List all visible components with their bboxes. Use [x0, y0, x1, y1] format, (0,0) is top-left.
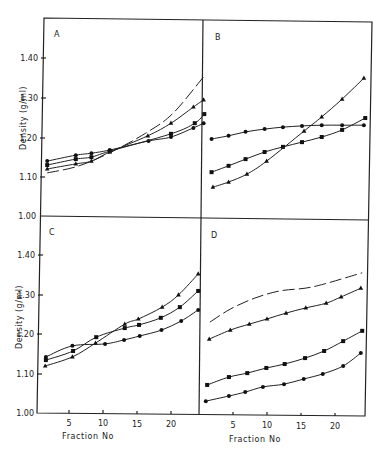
triangle-marker-icon	[264, 158, 269, 162]
circle-marker-icon	[191, 126, 195, 130]
ytick-label: 1.40	[17, 251, 35, 260]
ytick-label: 1.10	[19, 173, 37, 182]
square-marker-icon	[244, 157, 248, 161]
circle-marker-icon	[227, 134, 231, 138]
circle-marker-icon	[281, 125, 285, 129]
x-axis-right: 5 10 15 20 Fraction No	[229, 412, 340, 444]
square-marker-icon	[44, 358, 48, 362]
square-marker-icon	[283, 362, 287, 366]
series-line-triangles	[45, 274, 198, 366]
circle-marker-icon	[320, 123, 324, 127]
circle-marker-icon	[261, 385, 265, 389]
circle-marker-icon	[70, 344, 74, 348]
square-marker-icon	[210, 170, 214, 174]
panel-c-series	[43, 271, 201, 367]
circle-marker-icon	[179, 319, 183, 323]
square-marker-icon	[322, 349, 326, 353]
circle-marker-icon	[302, 377, 306, 381]
series-line-triangles	[213, 78, 364, 187]
panel-label-a: A	[54, 30, 60, 39]
panel-b-series	[210, 76, 368, 189]
plot-series	[43, 75, 367, 403]
circle-marker-icon	[210, 137, 214, 141]
circle-marker-icon	[74, 153, 78, 157]
x-axis-label: Fraction No	[62, 432, 114, 441]
square-marker-icon	[360, 329, 364, 333]
xtick-label: 20	[330, 422, 340, 431]
ytick-label: 1.00	[18, 212, 36, 221]
panel-label-b: B	[215, 33, 221, 42]
panel-label-d: D	[211, 231, 217, 240]
xtick-label: 10	[262, 421, 272, 430]
figure-frame	[37, 18, 372, 416]
square-marker-icon	[71, 349, 75, 353]
series-line-circles	[212, 125, 364, 139]
square-marker-icon	[137, 323, 141, 327]
xtick-label: 5	[66, 419, 71, 428]
y-axis-bottom: 1.40 1.30 1.20 1.10 1.00 Density (g/ml)	[15, 251, 43, 418]
circle-marker-icon	[243, 390, 247, 394]
square-marker-icon	[202, 112, 206, 116]
series-line-circles	[46, 310, 198, 357]
square-marker-icon	[227, 375, 231, 379]
series-line-triangles	[47, 100, 203, 169]
xtick-label: 5	[230, 421, 235, 430]
panel-d-series	[204, 273, 364, 403]
square-marker-icon	[94, 335, 98, 339]
series-line-circles	[47, 123, 203, 161]
circle-marker-icon	[321, 372, 325, 376]
xtick-label: 15	[132, 420, 142, 429]
circle-marker-icon	[122, 338, 126, 342]
triangle-marker-icon	[362, 76, 367, 80]
square-marker-icon	[300, 140, 304, 144]
circle-marker-icon	[196, 308, 200, 312]
circle-marker-icon	[282, 382, 286, 386]
square-marker-icon	[303, 356, 307, 360]
square-marker-icon	[263, 150, 267, 154]
triangle-marker-icon	[359, 286, 364, 290]
ytick-label: 1.00	[16, 409, 34, 418]
series-line-dashed	[47, 75, 205, 173]
triangle-marker-icon	[302, 128, 307, 132]
y-axis-label: Density (g/ml)	[15, 285, 24, 349]
triangle-marker-icon	[191, 104, 196, 108]
x-axis-label: Fraction No	[229, 435, 281, 444]
square-marker-icon	[193, 121, 197, 125]
circle-marker-icon	[103, 342, 107, 346]
square-marker-icon	[363, 116, 367, 120]
series-line-squares	[47, 114, 204, 165]
square-marker-icon	[123, 326, 127, 330]
circle-marker-icon	[45, 159, 49, 163]
triangle-marker-icon	[196, 271, 201, 275]
square-marker-icon	[196, 289, 200, 293]
square-marker-icon	[340, 128, 344, 132]
panel-a-series	[45, 75, 206, 173]
panel-label-c: C	[49, 228, 55, 237]
y-axis-top: 1.40 1.30 1.20 1.10 1.00 Density (g/ml)	[18, 54, 46, 221]
circle-marker-icon	[159, 328, 163, 332]
xtick-label: 10	[98, 419, 108, 428]
circle-marker-icon	[227, 394, 231, 398]
square-marker-icon	[159, 316, 163, 320]
ytick-label: 1.40	[20, 54, 38, 63]
square-marker-icon	[264, 366, 268, 370]
y-axis-label: Density (g/ml)	[19, 86, 28, 150]
square-marker-icon	[74, 157, 78, 161]
xtick-label: 20	[166, 420, 176, 429]
square-marker-icon	[205, 383, 209, 387]
square-marker-icon	[169, 132, 173, 136]
circle-marker-icon	[362, 123, 366, 127]
square-marker-icon	[320, 135, 324, 139]
ytick-label: 1.10	[16, 370, 34, 379]
circle-marker-icon	[359, 351, 363, 355]
circle-marker-icon	[89, 151, 93, 155]
circle-marker-icon	[138, 334, 142, 338]
square-marker-icon	[227, 164, 231, 168]
circle-marker-icon	[341, 364, 345, 368]
circle-marker-icon	[204, 399, 208, 403]
square-marker-icon	[245, 371, 249, 375]
circle-marker-icon	[340, 123, 344, 127]
density-figure: 1.40 1.30 1.20 1.10 1.00 Density (g/ml) …	[0, 0, 383, 458]
circle-marker-icon	[263, 127, 267, 131]
circle-marker-icon	[244, 130, 248, 134]
